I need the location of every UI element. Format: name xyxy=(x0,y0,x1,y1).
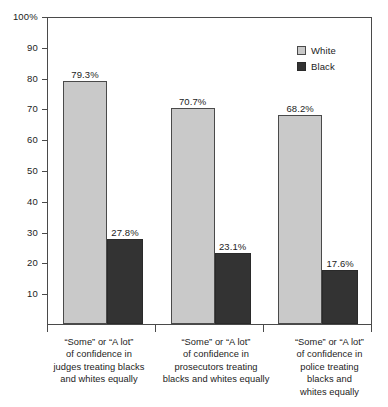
category-label-line: police treating xyxy=(276,361,383,373)
category-tick xyxy=(155,325,156,332)
y-tick-label: 30 xyxy=(27,226,38,239)
y-tick-label: 100% xyxy=(13,10,38,23)
category-label-line: whites equally xyxy=(276,386,383,398)
category-label-line: of confidence in xyxy=(152,348,280,360)
bar-group-prosecutors: 70.7% 23.1% xyxy=(156,18,264,324)
legend-swatch-icon xyxy=(297,62,306,71)
bar-prosecutors-white: 70.7% xyxy=(171,108,215,324)
y-axis: 100% 90 80 70 60 50 40 30 xyxy=(0,17,47,325)
category-label-line: prosecutors treating xyxy=(152,361,280,373)
y-tick-label: 50 xyxy=(27,164,38,177)
bar-judges-black: 27.8% xyxy=(107,239,143,324)
category-label-line: “Some” or “A lot” xyxy=(152,336,280,348)
legend-label: Black xyxy=(311,61,335,72)
category-label-line: judges treating blacks xyxy=(38,361,160,373)
category-label-line: “Some” or “A lot” xyxy=(38,336,160,348)
category-label-line: blacks and whites equally xyxy=(152,373,280,385)
category-label-prosecutors: “Some” or “A lot” of confidence in prose… xyxy=(152,336,280,386)
bar-value-label: 79.3% xyxy=(71,69,98,80)
legend-item-black: Black xyxy=(297,59,367,73)
category-labels: “Some” or “A lot” of confidence in judge… xyxy=(38,336,383,406)
category-label-line: of confidence in xyxy=(38,348,160,360)
legend-swatch-icon xyxy=(297,46,306,55)
category-label-line: “Some” or “A lot” xyxy=(276,336,383,348)
legend-label: White xyxy=(311,45,336,56)
bar-judges-white: 79.3% xyxy=(63,81,107,324)
category-label-line: and whites equally xyxy=(38,373,160,385)
y-tick-label: 90 xyxy=(27,41,38,54)
category-label-line: of confidence in xyxy=(276,348,383,360)
bar-value-label: 23.1% xyxy=(219,241,246,252)
category-tick xyxy=(47,325,48,332)
bar-police-white: 68.2% xyxy=(278,115,322,324)
category-label-police: “Some” or “A lot” of confidence in polic… xyxy=(276,336,383,398)
bar-value-label: 27.8% xyxy=(111,227,138,238)
category-tick xyxy=(371,325,372,332)
category-label-line: blacks and xyxy=(276,373,383,385)
category-label-judges: “Some” or “A lot” of confidence in judge… xyxy=(38,336,160,386)
y-tick-label: 20 xyxy=(27,256,38,269)
bar-value-label: 70.7% xyxy=(179,96,206,107)
y-tick-label: 70 xyxy=(27,102,38,115)
bar-group-judges: 79.3% 27.8% xyxy=(48,18,156,324)
y-tick-label: 10 xyxy=(27,287,38,300)
bar-police-black: 17.6% xyxy=(322,270,358,324)
bar-prosecutors-black: 23.1% xyxy=(215,253,251,324)
legend-item-white: White xyxy=(297,43,367,57)
category-tick-marks xyxy=(47,325,372,333)
category-tick xyxy=(263,325,264,332)
y-tick-label: 40 xyxy=(27,195,38,208)
y-tick-label: 80 xyxy=(27,72,38,85)
y-tick-label: 60 xyxy=(27,133,38,146)
chart-legend: White Black xyxy=(297,43,367,75)
bar-value-label: 68.2% xyxy=(286,103,313,114)
bar-value-label: 17.6% xyxy=(326,258,353,269)
bar-chart: 100% 90 80 70 60 50 40 30 xyxy=(0,0,388,407)
